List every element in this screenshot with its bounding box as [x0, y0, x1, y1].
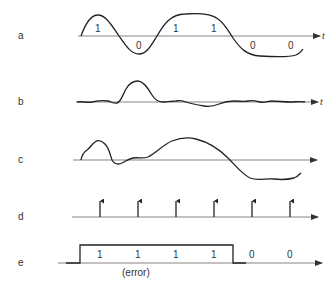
bit-a-4: 1 — [211, 23, 217, 34]
bit-a-1: 1 — [95, 23, 101, 34]
error-annotation: (error) — [122, 267, 150, 278]
time-axis-label-b: t — [320, 96, 323, 107]
row-a: a t 1 0 1 1 0 0 — [18, 14, 325, 57]
bit-e-4: 1 — [211, 249, 217, 260]
row-label-a: a — [18, 30, 24, 41]
row-b: b t — [18, 81, 323, 107]
digital-output-e — [66, 245, 246, 263]
bit-e-3: 1 — [173, 249, 179, 260]
bit-e-2: 1 — [135, 249, 141, 260]
time-axis-label-a: t — [322, 30, 325, 41]
bit-e-5: 0 — [249, 249, 255, 260]
row-c: c — [18, 138, 317, 179]
row-label-c: c — [18, 154, 23, 165]
waveform-b — [77, 81, 305, 106]
signal-diagram: a t 1 0 1 1 0 0 b t c d e — [0, 0, 336, 290]
bit-a-3: 1 — [173, 23, 179, 34]
bit-e-6: 0 — [287, 249, 293, 260]
bit-a-5: 0 — [250, 40, 256, 51]
waveform-a — [81, 14, 303, 57]
row-e: e 1 1 1 1 0 0 (error) — [18, 245, 322, 278]
waveform-c — [81, 138, 301, 179]
bit-a-6: 0 — [288, 40, 294, 51]
row-label-d: d — [18, 211, 24, 222]
row-label-e: e — [18, 257, 24, 268]
row-d: d — [18, 201, 318, 222]
bit-a-2: 0 — [136, 40, 142, 51]
sampling-pulses — [100, 201, 290, 217]
bit-e-1: 1 — [97, 249, 103, 260]
row-label-b: b — [18, 96, 24, 107]
